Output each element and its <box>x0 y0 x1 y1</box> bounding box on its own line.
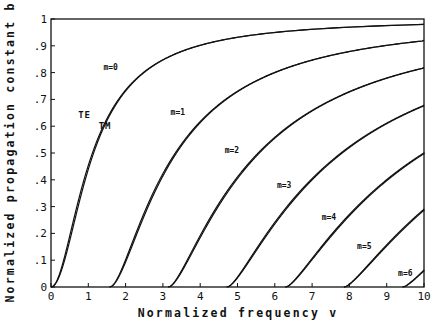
tm-curve-m3 <box>227 106 424 287</box>
x-tick-label: 9 <box>383 290 390 303</box>
mode-label-m2: m=2 <box>225 146 240 155</box>
x-tick-label: 0 <box>48 290 55 303</box>
plot-axes: 0123456789100.1.2.3.4.5.6.7.8.91 <box>34 13 431 303</box>
y-tick-label: .6 <box>34 120 47 133</box>
x-tick-label: 5 <box>234 290 241 303</box>
x-tick-label: 8 <box>346 290 353 303</box>
mode-label-m6: m=6 <box>398 269 413 278</box>
tm-curve-m1 <box>110 40 424 287</box>
te-curve-m3 <box>227 105 424 287</box>
y-tick-label: 1 <box>40 13 47 26</box>
y-tick-label: .2 <box>34 227 47 240</box>
x-tick-label: 6 <box>271 290 278 303</box>
polarization-label-te: TE <box>78 110 91 120</box>
tm-curve-m2 <box>168 68 424 287</box>
mode-label-m3: m=3 <box>277 181 292 190</box>
y-tick-label: .5 <box>34 147 47 160</box>
x-tick-label: 4 <box>197 290 204 303</box>
y-tick-label: .3 <box>34 201 47 214</box>
y-tick-label: .1 <box>34 254 47 267</box>
curve-labels: TETMm=0m=1m=2m=3m=4m=5m=6 <box>78 63 413 278</box>
tm-curve-m4 <box>285 153 424 287</box>
mode-label-m1: m=1 <box>171 108 186 117</box>
x-axis-label: Normalized frequency v <box>138 306 339 320</box>
b-v-dispersion-chart: 0123456789100.1.2.3.4.5.6.7.8.91 TETMm=0… <box>0 0 445 331</box>
x-tick-label: 7 <box>309 290 316 303</box>
mode-label-m5: m=5 <box>357 242 372 251</box>
polarization-label-tm: TM <box>99 121 112 131</box>
y-tick-label: .7 <box>34 93 47 106</box>
y-tick-label: .8 <box>34 67 47 80</box>
y-tick-label: 0 <box>40 281 47 294</box>
y-tick-label: .4 <box>34 174 48 187</box>
mode-label-m0: m=0 <box>103 63 118 72</box>
te-curve-m2 <box>168 68 424 287</box>
x-tick-label: 2 <box>122 290 129 303</box>
x-tick-label: 1 <box>85 290 92 303</box>
te-curve-m1 <box>110 40 424 287</box>
x-tick-label: 3 <box>160 290 167 303</box>
mode-label-m4: m=4 <box>322 213 337 222</box>
y-tick-label: .9 <box>34 40 47 53</box>
x-tick-label: 10 <box>417 290 430 303</box>
y-axis-label: Normalized propagation constant b <box>3 1 17 302</box>
